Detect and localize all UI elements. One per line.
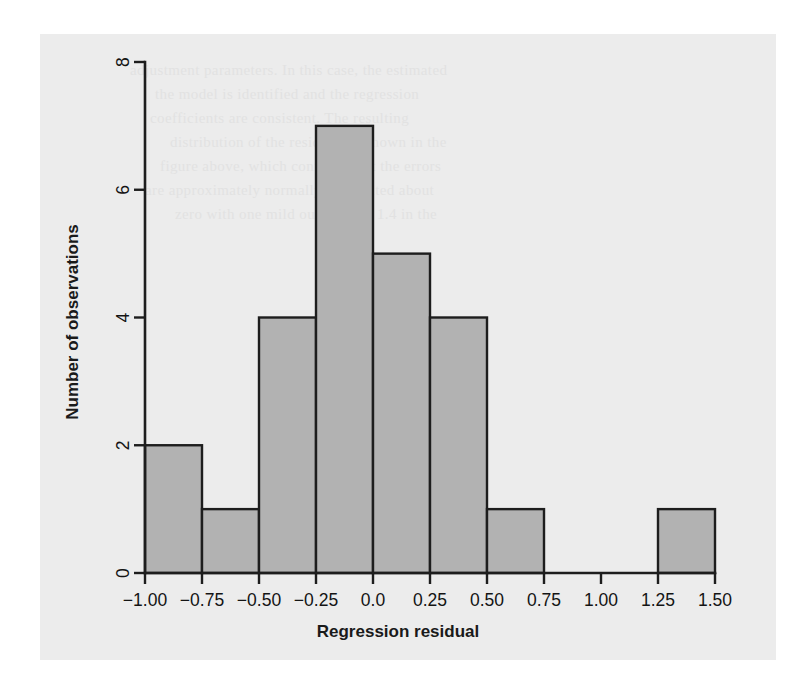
x-tick-label: 1.25 xyxy=(641,590,675,610)
x-tick-label: 0.75 xyxy=(527,590,561,610)
x-tick-label: 0.0 xyxy=(361,590,386,610)
histogram-bars xyxy=(145,126,715,573)
x-tick-label: −0.25 xyxy=(294,590,338,610)
histogram-bar xyxy=(487,509,544,573)
x-tick-label: −1.00 xyxy=(123,590,168,610)
x-tick-labels: −1.00−0.75−0.50−0.250.00.250.500.751.001… xyxy=(123,590,732,610)
histogram-bar xyxy=(658,509,715,573)
figure-canvas: adjustment parameters. In this case, the… xyxy=(0,0,804,692)
y-tick-label: 8 xyxy=(113,57,133,67)
histogram-bar xyxy=(259,318,316,574)
x-tick-label: −0.75 xyxy=(180,590,224,610)
histogram-bar xyxy=(145,445,202,573)
x-tick-label: 1.50 xyxy=(698,590,732,610)
x-tick-label: 1.00 xyxy=(584,590,618,610)
y-tick-label: 6 xyxy=(113,185,133,195)
y-axis-title: Number of observations xyxy=(63,224,82,420)
histogram-bar xyxy=(430,318,487,574)
x-axis xyxy=(145,573,715,584)
y-tick-label: 4 xyxy=(113,312,133,322)
x-tick-label: 0.25 xyxy=(413,590,447,610)
histogram-bar xyxy=(316,126,373,573)
histogram-bar xyxy=(202,509,259,573)
x-axis-title: Regression residual xyxy=(317,622,480,641)
y-axis xyxy=(134,62,145,573)
x-tick-label: 0.50 xyxy=(470,590,504,610)
y-tick-labels: 02468 xyxy=(113,57,133,578)
histogram-plot: −1.00−0.75−0.50−0.250.00.250.500.751.001… xyxy=(0,0,804,692)
x-tick-label: −0.50 xyxy=(237,590,282,610)
y-tick-label: 0 xyxy=(113,568,133,578)
histogram-bar xyxy=(373,254,430,573)
y-tick-label: 2 xyxy=(113,440,133,450)
